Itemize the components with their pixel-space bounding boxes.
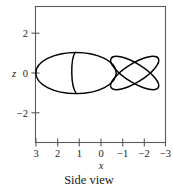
z-tick-labels: 2 0 −2 — [17, 28, 28, 119]
figure-caption: Side view — [64, 173, 114, 187]
x-tick-label-3: 3 — [33, 148, 38, 159]
z-axis-title: z — [11, 68, 16, 79]
fish-gill-arc — [72, 53, 76, 94]
x-tick-label-1: 1 — [77, 148, 82, 159]
plot-frame — [36, 7, 166, 143]
z-tick-label-minus2: −2 — [17, 108, 28, 119]
fish-tail-ellipse-lower — [106, 50, 163, 95]
x-tick-label-minus2: −2 — [139, 148, 150, 159]
x-tick-label-minus1: −1 — [117, 148, 128, 159]
fish-tail-ellipse-upper — [106, 50, 163, 95]
plot-svg: 2 0 −2 z 3 2 1 0 −1 −2 −3 x Side view — [0, 0, 173, 188]
x-tick-label-0: 0 — [98, 148, 103, 159]
fish-curve — [36, 50, 163, 95]
x-tick-label-2: 2 — [55, 148, 60, 159]
x-tick-label-minus3: −3 — [160, 148, 171, 159]
z-tick-label-0: 0 — [23, 68, 28, 79]
x-tick-labels: 3 2 1 0 −1 −2 −3 — [33, 148, 171, 159]
x-axis-title: x — [98, 160, 104, 171]
fish-body-ellipse — [36, 52, 116, 93]
side-view-figure: 2 0 −2 z 3 2 1 0 −1 −2 −3 x Side view — [0, 0, 173, 188]
plot-box-border — [36, 7, 166, 143]
z-tick-label-2: 2 — [23, 28, 28, 39]
